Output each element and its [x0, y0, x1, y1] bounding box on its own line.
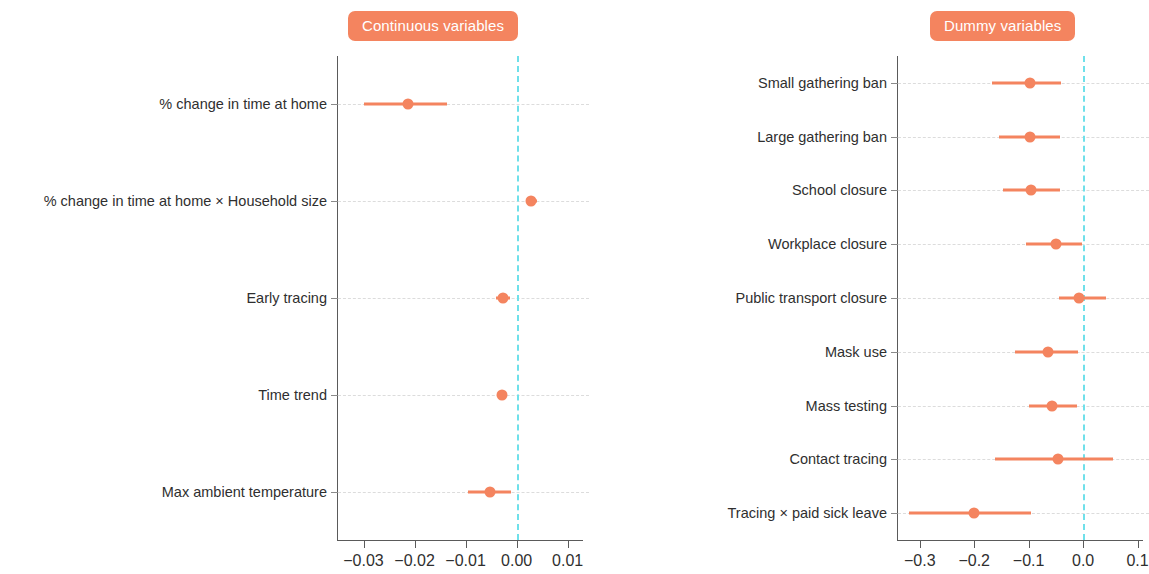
point-estimate-marker — [1026, 185, 1037, 196]
y-axis-label: Early tracing — [246, 290, 327, 306]
x-axis-tick-label: −0.2 — [958, 552, 990, 570]
y-axis-tick — [331, 492, 338, 493]
x-axis-tick-label: 0.0 — [1072, 552, 1094, 570]
x-axis-tick — [466, 540, 467, 548]
y-axis-tick — [891, 244, 898, 245]
point-estimate-marker — [525, 196, 536, 207]
plot-area-continuous: % change in time at home% change in time… — [337, 56, 583, 541]
y-axis-tick — [891, 406, 898, 407]
y-axis-label: School closure — [792, 182, 887, 198]
point-estimate-marker — [1050, 239, 1061, 250]
y-axis-tick — [891, 459, 898, 460]
y-axis-label: % change in time at home × Household siz… — [44, 193, 327, 209]
point-estimate-marker — [1052, 454, 1063, 465]
y-axis-tick — [331, 395, 338, 396]
y-axis-tick — [891, 298, 898, 299]
gridline — [898, 406, 1149, 407]
point-estimate-marker — [497, 389, 508, 400]
panel-title-continuous: Continuous variables — [348, 11, 518, 41]
point-estimate-marker — [498, 293, 509, 304]
y-axis-label: Max ambient temperature — [162, 484, 327, 500]
y-axis-label: Time trend — [258, 387, 327, 403]
y-axis-label: Large gathering ban — [757, 129, 887, 145]
x-axis-tick — [568, 540, 569, 548]
panel-dummy-variables: Dummy variables Small gathering banLarge… — [600, 0, 1140, 574]
x-axis-tick-label: −0.3 — [904, 552, 936, 570]
x-axis-tick — [1029, 540, 1030, 548]
y-axis-tick — [891, 513, 898, 514]
gridline — [338, 492, 589, 493]
point-estimate-marker — [969, 508, 980, 519]
y-axis-label: Public transport closure — [735, 290, 887, 306]
panel-title-dummy: Dummy variables — [930, 11, 1075, 41]
point-estimate-marker — [1024, 131, 1035, 142]
x-axis-tick-label: 0.1 — [1126, 552, 1148, 570]
y-axis-label: % change in time at home — [159, 96, 327, 112]
point-estimate-marker — [485, 486, 496, 497]
point-estimate-marker — [1073, 293, 1084, 304]
point-estimate-marker — [403, 99, 414, 110]
x-axis-tick — [1083, 540, 1084, 548]
x-axis-tick — [974, 540, 975, 548]
y-axis-label: Contact tracing — [789, 451, 887, 467]
y-axis-label: Mass testing — [806, 398, 887, 414]
x-axis-tick — [1138, 540, 1139, 548]
x-axis-tick-label: 0.00 — [501, 552, 532, 570]
point-estimate-marker — [1042, 346, 1053, 357]
y-axis-tick — [331, 298, 338, 299]
y-axis-label: Workplace closure — [768, 236, 887, 252]
y-axis-tick — [331, 201, 338, 202]
y-axis-tick — [891, 190, 898, 191]
x-axis-tick-label: 0.01 — [552, 552, 583, 570]
x-axis-tick-label: −0.1 — [1013, 552, 1045, 570]
x-axis-tick — [364, 540, 365, 548]
gridline — [338, 201, 589, 202]
y-axis-label: Mask use — [825, 344, 887, 360]
gridline — [898, 298, 1149, 299]
y-axis-label: Small gathering ban — [758, 75, 887, 91]
x-axis-tick-label: −0.03 — [343, 552, 383, 570]
y-axis-tick — [891, 352, 898, 353]
gridline — [338, 395, 589, 396]
y-axis-tick — [331, 104, 338, 105]
zero-reference-line — [517, 56, 519, 540]
panel-continuous-variables: Continuous variables % change in time at… — [0, 0, 600, 574]
x-axis-tick — [415, 540, 416, 548]
x-axis-tick — [920, 540, 921, 548]
x-axis-tick-label: −0.01 — [445, 552, 485, 570]
x-axis-tick — [517, 540, 518, 548]
x-axis-tick-label: −0.02 — [394, 552, 434, 570]
plot-area-dummy: Small gathering banLarge gathering banSc… — [897, 56, 1143, 541]
gridline — [338, 298, 589, 299]
point-estimate-marker — [1047, 400, 1058, 411]
y-axis-label: Tracing × paid sick leave — [728, 505, 887, 521]
gridline — [898, 244, 1149, 245]
y-axis-tick — [891, 83, 898, 84]
y-axis-tick — [891, 137, 898, 138]
point-estimate-marker — [1024, 77, 1035, 88]
